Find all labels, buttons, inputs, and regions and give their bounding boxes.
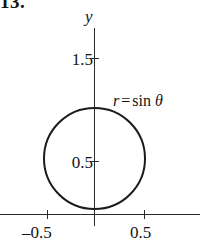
y-axis-label: y <box>85 7 93 27</box>
equation-operator: = <box>119 92 132 109</box>
y-tick-label-1-5: 1.5 <box>72 51 93 68</box>
x-tick-label-neg-0-5: –0.5 <box>22 224 52 241</box>
problem-number: 13. <box>0 0 25 13</box>
x-tick-label-0-5: 0.5 <box>130 224 151 241</box>
polar-curve-circle <box>43 107 146 210</box>
equation-argument: θ <box>155 92 163 109</box>
curve-equation-label: r=sin θ <box>113 92 163 110</box>
x-axis <box>0 214 200 215</box>
polar-graph-figure: 13. 1.5 0.5 –0.5 0.5 y r=sin θ <box>0 0 200 248</box>
x-axis-tick-0-5 <box>144 210 145 219</box>
x-axis-tick-neg-0-5 <box>47 210 48 219</box>
equation-function: sin <box>132 92 151 109</box>
